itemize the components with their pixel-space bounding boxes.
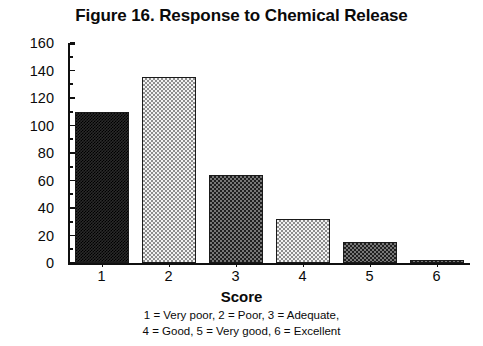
y-minor-tick-70 xyxy=(70,166,73,168)
x-tick-3 xyxy=(236,263,238,267)
x-tick-label-4: 4 xyxy=(298,268,306,284)
bar-score-1 xyxy=(75,112,129,263)
x-tick-label-3: 3 xyxy=(231,268,239,284)
y-tick-label-100: 100 xyxy=(30,118,54,134)
figure-chemical-release: Figure 16. Response to Chemical Release … xyxy=(0,0,483,346)
bar-score-5 xyxy=(343,242,397,263)
y-tick-label-40: 40 xyxy=(38,200,54,216)
y-minor-tick-50 xyxy=(70,193,73,195)
y-tick-120 xyxy=(70,97,75,99)
y-tick-label-160: 160 xyxy=(30,35,54,51)
chart-title: Figure 16. Response to Chemical Release xyxy=(0,6,483,26)
y-tick-label-80: 80 xyxy=(38,145,54,161)
y-axis-tick-labels: 020406080100120140160 xyxy=(0,43,64,265)
y-minor-tick-150 xyxy=(70,56,73,58)
y-tick-label-0: 0 xyxy=(46,255,54,271)
x-axis-tick-labels: 123456 xyxy=(68,268,470,288)
bar-score-2 xyxy=(142,77,196,263)
y-axis-line xyxy=(68,43,70,265)
y-minor-tick-30 xyxy=(70,221,73,223)
y-tick-label-20: 20 xyxy=(38,228,54,244)
x-tick-label-6: 6 xyxy=(432,268,440,284)
y-minor-tick-90 xyxy=(70,138,73,140)
x-tick-6 xyxy=(437,263,439,267)
x-tick-label-2: 2 xyxy=(164,268,172,284)
x-tick-2 xyxy=(169,263,171,267)
y-tick-label-140: 140 xyxy=(30,63,54,79)
y-minor-tick-110 xyxy=(70,111,73,113)
y-minor-tick-10 xyxy=(70,248,73,250)
plot-area xyxy=(68,43,470,265)
caption-line-2: 4 = Good, 5 = Very good, 6 = Excellent xyxy=(0,325,483,337)
caption-line-1: 1 = Very poor, 2 = Poor, 3 = Adequate, xyxy=(0,309,483,321)
bar-score-3 xyxy=(209,175,263,263)
x-tick-label-5: 5 xyxy=(365,268,373,284)
y-tick-140 xyxy=(70,70,75,72)
bar-score-4 xyxy=(276,219,330,263)
x-tick-label-1: 1 xyxy=(97,268,105,284)
x-axis-title: Score xyxy=(0,288,483,305)
x-tick-1 xyxy=(102,263,104,267)
y-tick-160 xyxy=(70,42,75,44)
y-minor-tick-130 xyxy=(70,83,73,85)
x-tick-4 xyxy=(303,263,305,267)
y-tick-label-60: 60 xyxy=(38,173,54,189)
x-tick-5 xyxy=(370,263,372,267)
x-axis-line xyxy=(68,263,470,265)
y-tick-label-120: 120 xyxy=(30,90,54,106)
